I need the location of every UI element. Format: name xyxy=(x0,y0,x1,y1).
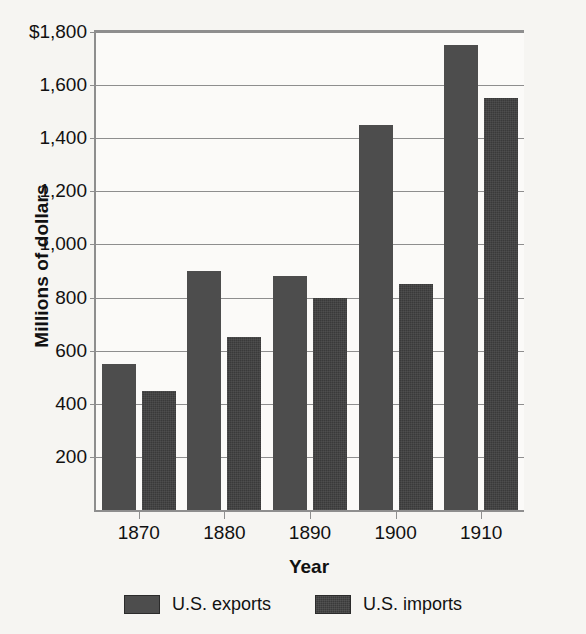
x-axis-tick-label: 1880 xyxy=(203,522,245,544)
x-axis-tick-label: 1910 xyxy=(460,522,502,544)
x-axis-tick-label: 1900 xyxy=(374,522,416,544)
bar-chart-figure: Millions of dollars 2004006008001,0001,2… xyxy=(0,0,586,634)
y-axis-tick-label: 1,400 xyxy=(39,127,87,149)
bar-imports-1910 xyxy=(484,98,518,510)
bar-imports-1880 xyxy=(227,337,261,510)
y-axis-tick-label: $1,800 xyxy=(29,21,87,43)
y-axis-tick-label: 1,600 xyxy=(39,74,87,96)
plot-area: 2004006008001,0001,2001,4001,600$1,800 1… xyxy=(94,30,524,512)
y-axis-tick-label: 400 xyxy=(55,393,87,415)
y-axis-tick-label: 200 xyxy=(55,446,87,468)
bar-exports-1900 xyxy=(359,125,393,510)
y-axis-tick-label: 600 xyxy=(55,340,87,362)
bar-exports-1890 xyxy=(273,276,307,510)
legend-item-imports: U.S. imports xyxy=(315,594,462,615)
x-axis-tick-mark xyxy=(396,510,397,519)
x-axis-tick-mark xyxy=(310,510,311,519)
x-axis-tick-mark xyxy=(224,510,225,519)
x-axis-tick-mark xyxy=(139,510,140,519)
y-axis-tick-label: 800 xyxy=(55,287,87,309)
bar-imports-1900 xyxy=(399,284,433,510)
y-axis-title: Millions of dollars xyxy=(31,116,53,416)
y-axis-tick-label: 1,000 xyxy=(39,233,87,255)
bar-exports-1870 xyxy=(102,364,136,510)
x-axis-tick-label: 1890 xyxy=(289,522,331,544)
bar-exports-1880 xyxy=(187,271,221,510)
legend-swatch-icon xyxy=(315,595,351,614)
y-axis-tick-label: 1,200 xyxy=(39,180,87,202)
x-axis-title: Year xyxy=(94,556,524,578)
bar-imports-1890 xyxy=(313,298,347,510)
legend-swatch-icon xyxy=(124,595,160,614)
bar-imports-1870 xyxy=(142,391,176,511)
bar-exports-1910 xyxy=(444,45,478,510)
legend-item-exports: U.S. exports xyxy=(124,594,271,615)
x-axis-tick-mark xyxy=(481,510,482,519)
legend-label: U.S. imports xyxy=(363,594,462,615)
legend-label: U.S. exports xyxy=(172,594,271,615)
x-axis-tick-label: 1870 xyxy=(118,522,160,544)
chart-legend: U.S. exportsU.S. imports xyxy=(0,594,586,615)
bar-series-group xyxy=(96,32,524,510)
